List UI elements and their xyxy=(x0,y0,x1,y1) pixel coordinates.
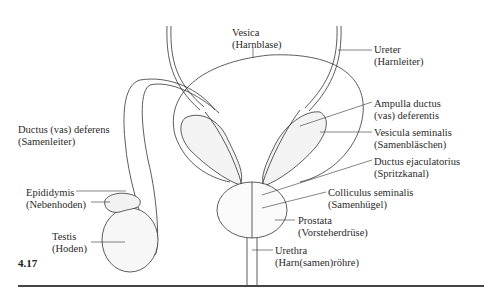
seminal-vesicle-left xyxy=(181,115,242,185)
label-german: (Nebenhoden) xyxy=(26,199,86,211)
label-latin: Epididymis xyxy=(26,187,86,199)
figure-number: 4.17 xyxy=(18,257,37,269)
label-german: (Harnblase) xyxy=(232,39,282,51)
seminal-vesicle-right xyxy=(263,112,327,186)
label-ductus-deferens: Ductus (vas) deferens (Samenleiter) xyxy=(18,124,110,148)
label-epididymis: Epididymis (Nebenhoden) xyxy=(26,187,86,211)
label-vesica: Vesica (Harnblase) xyxy=(232,27,282,51)
label-latin: Vesicula seminalis xyxy=(374,127,452,139)
bottom-rule xyxy=(18,285,484,287)
label-latin: Ureter xyxy=(374,44,424,56)
label-german: (Harn(samen)röhre) xyxy=(275,257,359,269)
label-latin: Prostata xyxy=(298,215,368,227)
testis xyxy=(102,208,158,272)
label-latin: Vesica xyxy=(232,27,282,39)
label-latin: Ductus (vas) deferens xyxy=(18,124,110,136)
label-latin: Colliculus seminalis xyxy=(328,187,413,199)
urethra xyxy=(247,238,257,285)
label-latin: Testis xyxy=(52,231,87,243)
ureter-right xyxy=(305,26,341,111)
label-german: (Samenleiter) xyxy=(18,136,110,148)
label-german: (Vorsteherdrüse) xyxy=(298,227,368,239)
label-ductus-ejaculatorius: Ductus ejaculatorius (Spritzkanal) xyxy=(374,156,460,180)
label-german: (vas) deferentis xyxy=(374,110,441,122)
label-vesicula-seminalis: Vesicula seminalis (Samenbläschen) xyxy=(374,127,452,151)
label-german: (Harnleiter) xyxy=(374,56,424,68)
label-german: (Samenbläschen) xyxy=(374,139,452,151)
label-prostata: Prostata (Vorsteherdrüse) xyxy=(298,215,368,239)
label-testis: Testis (Hoden) xyxy=(52,231,87,255)
label-german: (Samenhügel) xyxy=(328,199,413,211)
label-german: (Hoden) xyxy=(52,243,87,255)
label-german: (Spritzkanal) xyxy=(374,168,460,180)
label-ampulla: Ampulla ductus (vas) deferentis xyxy=(374,98,441,122)
label-latin: Urethra xyxy=(275,245,359,257)
label-ureter: Ureter (Harnleiter) xyxy=(374,44,424,68)
label-colliculus: Colliculus seminalis (Samenhügel) xyxy=(328,187,413,211)
label-urethra: Urethra (Harn(samen)röhre) xyxy=(275,245,359,269)
label-latin: Ampulla ductus xyxy=(374,98,441,110)
label-latin: Ductus ejaculatorius xyxy=(374,156,460,168)
